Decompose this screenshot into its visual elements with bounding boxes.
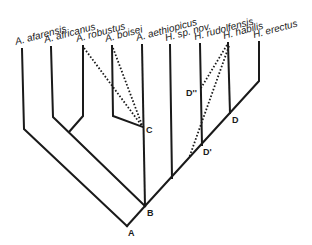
- node-label-a: A: [128, 228, 135, 238]
- dotted-habilis-to-d-double-prime: [201, 45, 227, 88]
- branch-h-sp-nov: [170, 45, 172, 178]
- node-label-d-prime: D': [203, 147, 212, 157]
- solid-branches: [22, 42, 259, 226]
- branch-rudolfensis: [200, 44, 202, 145]
- node-label-b: B: [147, 208, 154, 218]
- node-label-d-double-prime: D'': [186, 88, 197, 98]
- node-label-c: C: [146, 125, 153, 135]
- dotted-habilis-to-stem: [189, 46, 229, 158]
- branch-a-to-b: [127, 206, 145, 226]
- branch-habilis: [228, 43, 230, 113]
- branch-robustus: [69, 46, 83, 132]
- branch-africanus: [51, 47, 145, 206]
- branch-aethiopicus: [142, 45, 145, 206]
- dotted-branches: [84, 45, 229, 158]
- cladogram: A. afarensis A. africanus A. robustus A.…: [0, 0, 312, 245]
- node-label-d: D: [232, 115, 239, 125]
- dotted-boisei-to-c: [113, 48, 142, 125]
- taxon-labels: A. afarensis A. africanus A. robustus A.…: [13, 15, 299, 47]
